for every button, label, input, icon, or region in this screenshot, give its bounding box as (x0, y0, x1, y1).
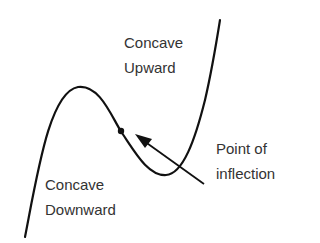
label-line: Concave (45, 172, 116, 197)
label-concave-downward: Concave Downward (45, 172, 116, 222)
label-point-of-inflection: Point of inflection (216, 136, 275, 186)
inflection-point-marker (118, 128, 124, 134)
label-line: Point of (216, 136, 275, 161)
label-concave-upward: Concave Upward (124, 30, 183, 80)
inflection-arrow-shaft (144, 141, 204, 184)
label-line: Concave (124, 30, 183, 55)
label-line: Upward (124, 55, 183, 80)
label-line: Downward (45, 197, 116, 222)
label-line: inflection (216, 161, 275, 186)
